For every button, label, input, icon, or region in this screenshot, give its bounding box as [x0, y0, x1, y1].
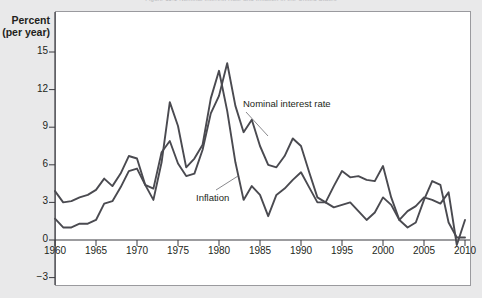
leader-line-inflation — [216, 176, 238, 190]
figure-container: Figure 11.1 Nominal Interest Rate and In… — [0, 0, 482, 298]
axis-tickmarks — [49, 52, 465, 278]
annotation-inflation: Inflation — [196, 192, 229, 203]
axis-lines — [55, 12, 470, 285]
annotation-nominal-interest-rate: Nominal interest rate — [243, 98, 331, 109]
series-line-inflation — [55, 71, 465, 245]
chart-svg — [0, 0, 482, 298]
series-line-nominal-interest-rate — [55, 63, 465, 237]
data-series-group — [55, 63, 465, 245]
annotation-leader-lines — [216, 112, 268, 190]
